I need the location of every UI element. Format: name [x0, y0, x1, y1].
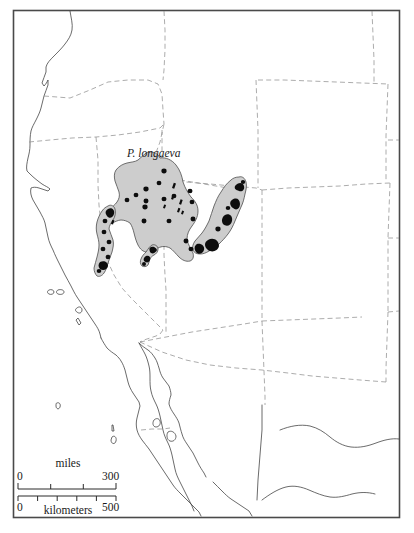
population-marker: [97, 269, 102, 273]
coastal-island-5: [56, 403, 60, 409]
scale-miles-start-label: 0: [17, 470, 23, 482]
map-canvas: P. longaeva miles 0 300 0 500 kilometers: [0, 0, 414, 533]
coastal-island-7: [111, 436, 116, 443]
gulf-island-b: [167, 431, 176, 441]
population-marker: [226, 206, 231, 210]
population-marker: [188, 189, 193, 194]
population-marker: [157, 181, 162, 186]
population-marker: [142, 262, 146, 266]
population-marker: [190, 200, 195, 205]
population-marker: [184, 239, 189, 244]
scale-kilometers-start-label: 0: [17, 501, 23, 513]
population-marker: [103, 219, 108, 223]
population-marker: [144, 199, 149, 204]
population-marker: [191, 217, 196, 222]
population-marker: [167, 219, 172, 224]
channel-island-2: [57, 290, 65, 295]
population-marker: [142, 219, 147, 224]
population-marker: [241, 180, 245, 184]
taxon-label: P. longaeva: [126, 147, 181, 160]
population-marker: [143, 187, 148, 192]
population-marker: [161, 169, 166, 174]
population-marker: [134, 193, 139, 198]
population-marker: [153, 248, 157, 252]
population-marker: [102, 230, 107, 234]
population-marker: [107, 240, 112, 244]
channel-island-3: [76, 307, 83, 313]
map-frame: [14, 11, 400, 518]
population-marker: [125, 198, 130, 203]
gulf-island-a: [153, 419, 160, 427]
scale-kilometers-unit-label: kilometers: [44, 504, 93, 516]
scale-miles-end-label: 300: [102, 470, 120, 482]
population-marker: [101, 247, 106, 251]
population-marker: [106, 255, 111, 259]
population-marker: [162, 197, 167, 202]
population-marker: [189, 247, 194, 252]
population-marker: [142, 205, 147, 210]
scale-miles-unit-label: miles: [56, 457, 81, 469]
distribution-map-figure: P. longaeva miles 0 300 0 500 kilometers: [0, 0, 414, 533]
channel-island-1: [48, 290, 55, 295]
scale-kilometers-end-label: 500: [102, 501, 120, 513]
population-marker: [215, 227, 220, 232]
